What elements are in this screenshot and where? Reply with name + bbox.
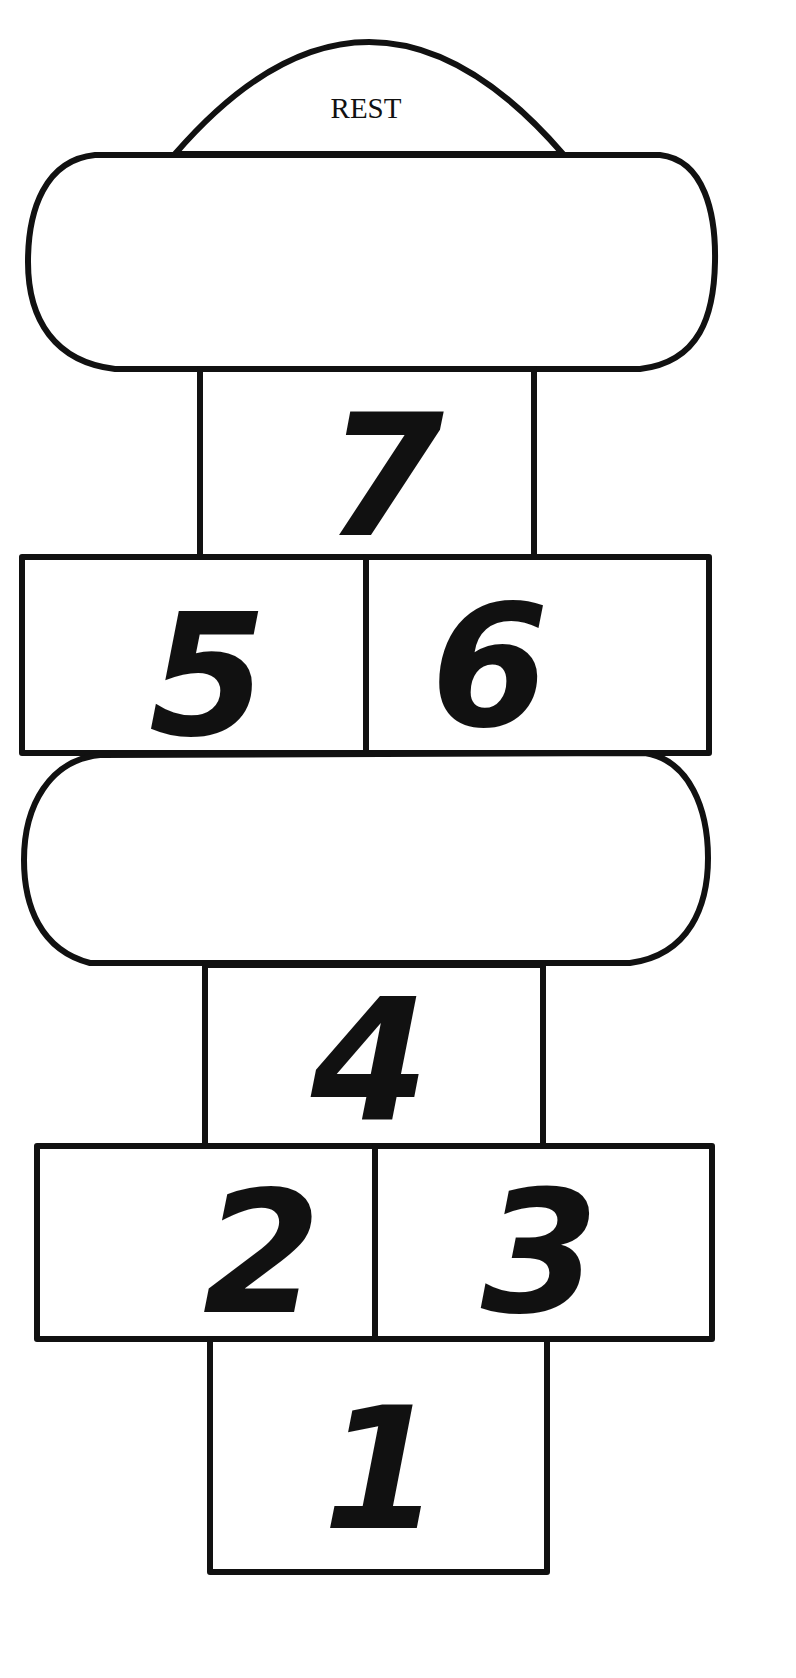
label-4: 4: [310, 962, 429, 1160]
top-oval: [28, 155, 715, 369]
label-3: 3: [481, 1154, 599, 1352]
label-1: 1: [323, 1370, 441, 1568]
label-5: 5: [149, 577, 267, 775]
rest-label: REST: [331, 92, 402, 124]
label-7: 7: [326, 377, 444, 575]
label-6: 6: [431, 567, 549, 765]
middle-oval: [24, 753, 708, 963]
hopscotch-board: REST 7 5 6 4 2 3 1: [0, 0, 796, 1678]
label-2: 2: [203, 1154, 321, 1352]
